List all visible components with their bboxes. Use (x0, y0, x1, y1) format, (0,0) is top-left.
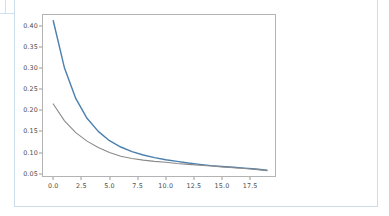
x-axis-tick-mark (250, 177, 251, 180)
chart-curves (42, 14, 276, 177)
x-axis-tick-label: 5.0 (104, 182, 115, 190)
x-axis-tick-mark (222, 177, 223, 180)
x-axis-tick-mark (109, 177, 110, 180)
x-axis-tick-mark (53, 177, 54, 180)
y-axis-tick-label: 0.15 (23, 127, 38, 135)
x-axis-tick-mark (193, 177, 194, 180)
x-axis-tick-mark (137, 177, 138, 180)
x-axis-tick-label: 7.5 (132, 182, 143, 190)
y-axis-tick-label: 0.05 (23, 170, 38, 178)
x-axis-tick-label: 12.5 (186, 182, 201, 190)
document-corner-horizontal-rule (0, 13, 14, 14)
x-axis-tick-mark (165, 177, 166, 180)
y-axis-tick-label: 0.35 (23, 43, 38, 51)
y-axis-tick-label: 0.10 (23, 149, 38, 157)
x-axis-tick-label: 2.5 (76, 182, 87, 190)
y-axis-tick-label: 0.30 (23, 64, 38, 72)
y-axis-tick-label: 0.25 (23, 85, 38, 93)
x-axis-tick-label: 15.0 (215, 182, 230, 190)
x-axis-tick-label: 17.5 (243, 182, 258, 190)
y-axis-tick-label: 0.40 (23, 22, 38, 30)
x-axis-tick-label: 0.0 (48, 182, 59, 190)
document-corner-vertical-rule (5, 0, 6, 14)
y-axis-tick-label: 0.20 (23, 106, 38, 114)
x-axis-tick-mark (81, 177, 82, 180)
screenshot-canvas: 0.050.100.150.200.250.300.350.40 0.02.55… (0, 0, 389, 216)
chart-line-series-1 (53, 21, 267, 170)
chart-plot-area: 0.050.100.150.200.250.300.350.40 0.02.55… (42, 14, 276, 177)
x-axis-tick-label: 10.0 (158, 182, 173, 190)
